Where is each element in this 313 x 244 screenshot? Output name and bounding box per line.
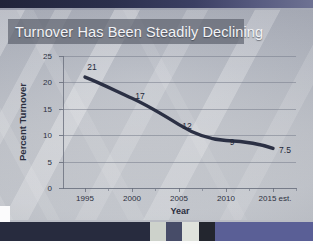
x-tick-mark-2010 (226, 188, 227, 192)
x-tick-mark-1995 (85, 188, 86, 192)
y-tick-label-15: 15 (26, 104, 52, 113)
y-tick-label-20: 20 (26, 78, 52, 87)
slide-canvas: Turnover Has Been Steadily Declining 25 … (0, 0, 313, 244)
footer-segment-light (182, 222, 199, 241)
x-tick-label-2015: 2015 est. (259, 194, 292, 203)
x-tick-minor-3 (202, 188, 203, 191)
footer-segment-slate (166, 222, 182, 241)
x-tick-minor-2 (155, 188, 156, 191)
data-label-2005: 12 (182, 121, 191, 131)
y-tick-label-25: 25 (26, 52, 52, 61)
turnover-trend-line (63, 56, 296, 188)
x-tick-label-2010: 2010 (217, 194, 235, 203)
footer-segment-charcoal (199, 222, 215, 241)
x-tick-mark-2005 (179, 188, 180, 192)
x-tick-mark-2000 (132, 188, 133, 192)
x-tick-minor-1 (108, 188, 109, 191)
y-tick-label-10: 10 (26, 131, 52, 140)
footer-color-strip (0, 222, 313, 241)
x-tick-label-2005: 2005 (170, 194, 188, 203)
x-tick-label-2000: 2000 (123, 194, 141, 203)
x-tick-minor-5 (296, 188, 297, 191)
x-tick-minor-4 (249, 188, 250, 191)
y-axis-title: Percent Turnover (17, 83, 28, 161)
page-title: Turnover Has Been Steadily Declining (8, 24, 263, 40)
data-label-2015: 7.5 (279, 145, 291, 155)
x-axis-line (63, 188, 297, 189)
x-axis-title: Year (170, 206, 189, 216)
y-tick-label-0: 0 (26, 184, 52, 193)
data-label-1995: 21 (87, 62, 96, 72)
x-tick-mark-2015 (273, 188, 274, 192)
top-accent-bar-edge (0, 8, 313, 10)
footer-segment-blue-purple (215, 222, 313, 241)
y-tick-mark-0 (59, 188, 63, 189)
data-label-2000: 17 (135, 91, 144, 101)
line-chart: 25 20 15 10 5 0 1995 2000 2005 2010 2015… (0, 46, 313, 206)
left-margin-fill (0, 206, 10, 222)
x-tick-label-1995: 1995 (76, 194, 94, 203)
y-tick-label-5: 5 (26, 157, 52, 166)
footer-segment-dark-navy (0, 222, 150, 241)
title-banner: Turnover Has Been Steadily Declining (8, 19, 244, 44)
data-label-2010: 9 (230, 137, 235, 147)
top-accent-bar (0, 0, 313, 8)
footer-segment-pale-gray (150, 222, 166, 241)
